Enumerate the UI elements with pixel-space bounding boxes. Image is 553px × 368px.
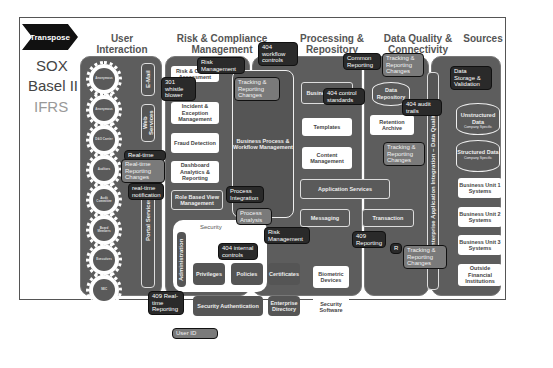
actor-label: Auditors: [93, 159, 115, 181]
db-unstructured-data: Unstructured DataCompany Specific: [456, 103, 500, 135]
box-biometric-devices: Biometric Devices: [313, 266, 349, 288]
actor-anonymous-2: Anonymous: [89, 95, 119, 125]
box-application-services: Application Services: [300, 179, 390, 199]
box-outside-financial: Outside Financial Institutions: [458, 264, 502, 286]
channel-email: E-Mail: [141, 63, 155, 96]
box-security-authentication: Security Authentication: [193, 296, 263, 316]
db-sub: Company Specific: [457, 156, 499, 160]
box-incident-exception: Incident & Exception Management: [171, 102, 219, 124]
security-administration: Administration: [177, 232, 186, 287]
callout-tracking-3: Tracking & Reporting Changes: [383, 142, 425, 166]
db-structured-data: Structured DataCompany Specific: [456, 140, 500, 172]
box-certificates: Certificates: [268, 263, 300, 285]
box-dashboard-analytics: Dashboard Analytics & Reporting: [171, 161, 219, 183]
callout-realtime-changes: Real-time Reporting Changes: [121, 159, 165, 183]
box-fraud-detection: Fraud Detection: [171, 133, 219, 153]
actor-anonymous-1: Anonymous: [89, 64, 119, 94]
callout-301-whistle-blower: 301 whistle blower: [161, 77, 196, 101]
regulation-sox: SOX: [36, 57, 68, 74]
channel-web-services: Web Services: [141, 104, 155, 142]
db-sub: Company Specific: [457, 125, 499, 129]
callout-tracking-1: Tracking & Reporting Changes: [234, 77, 280, 101]
db-title: Structured Data: [457, 149, 498, 155]
box-enterprise-directory: Enterprise Directory: [268, 296, 300, 316]
callout-process-integration: Process Integration: [226, 186, 264, 203]
box-security-software: Security Software: [313, 296, 349, 318]
callout-404-workflow-controls: 404 workflow controls: [258, 42, 298, 66]
box-templates: Templates: [302, 118, 352, 136]
box-content-management: Content Management: [302, 147, 352, 169]
header-processing: Processing & Repository: [292, 33, 372, 55]
actor-sec: SEC: [89, 275, 119, 305]
box-transaction: Transaction: [362, 209, 414, 227]
callout-404-internal-controls: 404 internal controls: [218, 243, 258, 260]
callout-r-partial: R: [390, 243, 402, 254]
callout-data-storage: Data Storage & Validation: [450, 66, 492, 90]
actor-auditors: Auditors: [89, 155, 119, 185]
actor-label: Anonymous: [93, 68, 115, 90]
box-role-based-view: Role Based View Management: [171, 190, 223, 210]
callout-realtime-notification: real-time notification: [128, 183, 164, 200]
callout-tracking-2: Tracking & Reporting Changes: [382, 53, 424, 77]
logo-label: Transpose: [30, 33, 70, 42]
callout-user-id: User ID: [172, 328, 218, 339]
regulation-ifrs: IFRS: [34, 98, 68, 115]
actor-label: SEC: [93, 279, 115, 301]
db-title: Unstructured Data: [461, 112, 496, 125]
actor-do-carrier: D&O Carrier: [89, 125, 119, 155]
box-bu2-systems: Business Unit 2 Systems: [458, 207, 502, 227]
header-risk-compliance: Risk & Compliance Management: [172, 33, 272, 55]
actor-label: Board Members: [93, 219, 115, 241]
regulation-basel: Basel II: [28, 77, 78, 94]
callout-409-reporting: 409 Reporting: [352, 231, 386, 248]
callout-common-reporting: Common Reporting: [343, 53, 381, 70]
header-user-interaction: User Interaction: [92, 33, 152, 55]
box-bu1-systems: Business Unit 1 Systems: [458, 178, 502, 198]
security-title: Security: [200, 224, 222, 230]
box-retention-archive: Retention Archive: [370, 115, 414, 135]
callout-404-control-standards: 404 control standards: [323, 88, 365, 105]
header-data-quality: Data Quality & Connectivity: [378, 33, 458, 55]
actor-label: D&O Carrier: [93, 129, 115, 151]
callout-risk-management-bottom: Risk Management: [264, 227, 310, 244]
actor-label: Executives: [93, 249, 115, 271]
callout-404-audit-trails: 404 audit trails: [402, 99, 442, 116]
actor-executives: Executives: [89, 245, 119, 275]
actor-audit-committee: Audit Committee: [89, 185, 119, 215]
header-sources: Sources: [463, 33, 503, 44]
box-policies: Policies: [231, 263, 263, 285]
box-messaging: Messaging: [300, 209, 350, 227]
callout-process-analysis: Process Analysis: [236, 208, 272, 225]
callout-risk-management-top: Risk Management: [197, 57, 245, 74]
actor-board-members: Board Members: [89, 215, 119, 245]
callout-409-realtime: 409 Real-time Reporting: [148, 291, 184, 315]
box-bu3-systems: Business Unit 3 Systems: [458, 235, 502, 255]
box-privileges: Privileges: [193, 263, 225, 285]
actor-label: Audit Committee: [93, 189, 115, 211]
actor-label: Anonymous: [93, 99, 115, 121]
callout-tracking-4: Tracking & Reporting Changes: [403, 245, 447, 269]
